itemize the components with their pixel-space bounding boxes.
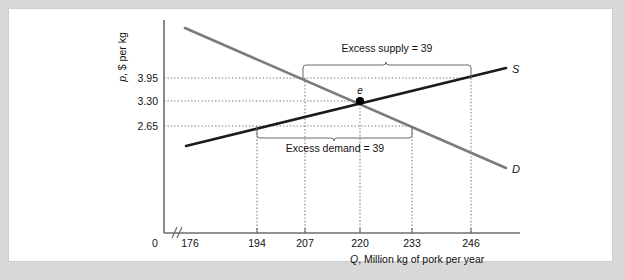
xtick-label-220: 220 (351, 237, 369, 249)
ytick-label-3-95: 3.95 (138, 72, 159, 84)
excess-supply-brace (303, 62, 471, 78)
xtick-label-origin: 0 (152, 237, 158, 249)
xtick-label-194: 194 (248, 237, 266, 249)
excess-supply-label: Excess supply = 39 (342, 42, 433, 54)
y-axis-tick-labels: 3.95 3.30 2.65 (138, 72, 159, 132)
excess-demand-brace (257, 127, 412, 141)
xtick-label-207: 207 (296, 237, 314, 249)
x-axis-title-symbol: Q (350, 253, 358, 265)
ytick-label-2-65: 2.65 (138, 120, 159, 132)
xtick-label-176: 176 (181, 237, 199, 249)
x-axis-title: Q, Million kg of pork per year (350, 253, 485, 265)
xtick-label-233: 233 (403, 237, 421, 249)
y-axis-title: p, $ per kg (116, 32, 128, 83)
y-axis-title-rest: , $ per kg (116, 32, 128, 76)
demand-curve-label: D (512, 163, 520, 175)
excess-demand-label: Excess demand = 39 (286, 142, 385, 154)
excess-supply-annotation: Excess supply = 39 (303, 42, 471, 78)
xtick-label-246: 246 (462, 237, 480, 249)
equilibrium-point (356, 97, 364, 105)
supply-curve-label: S (512, 63, 520, 75)
supply-demand-chart: D S e Excess supply = 39 Excess demand =… (0, 0, 625, 280)
ytick-label-3-30: 3.30 (138, 95, 159, 107)
equilibrium-label: e (357, 85, 363, 96)
supply-curve (186, 68, 506, 146)
excess-demand-annotation: Excess demand = 39 (257, 127, 412, 154)
x-axis-title-rest: , Million kg of pork per year (358, 253, 485, 265)
x-axis-tick-labels: 0 176 194 207 220 233 246 (152, 237, 480, 249)
